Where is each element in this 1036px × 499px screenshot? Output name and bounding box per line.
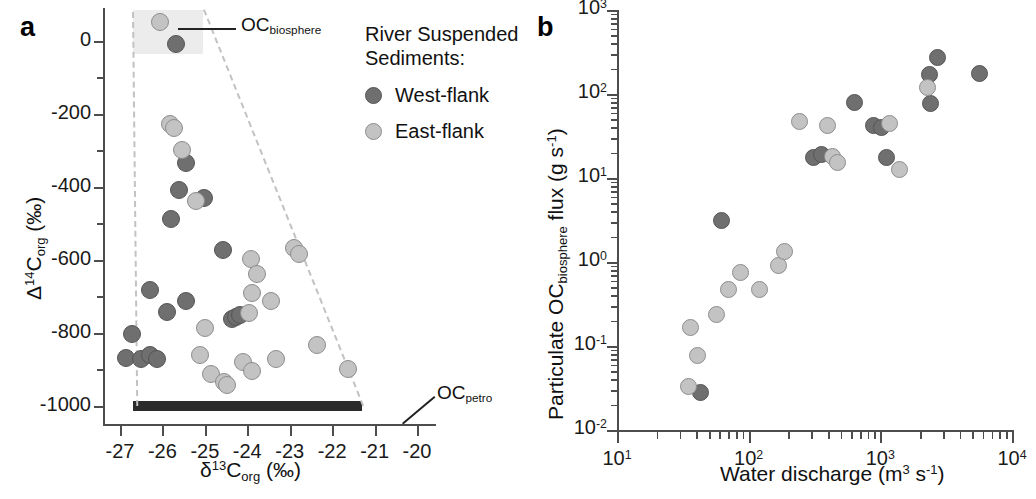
panel-b-x-minor-tick xyxy=(743,432,745,439)
data-point-east xyxy=(267,350,285,368)
panel-b-y-minor-tick xyxy=(611,138,617,140)
panel-b-y-tick-label-0: 100 xyxy=(539,248,607,271)
panel-a-y-tick-2 xyxy=(94,187,103,189)
panel-b-x-minor-tick xyxy=(960,432,962,439)
panel-b-y-minor-tick xyxy=(611,211,617,213)
panel-b-x-tick-label-2: 102 xyxy=(704,447,794,470)
panel-b-x-minor-tick xyxy=(811,432,813,439)
panel-b-y-minor-tick xyxy=(611,281,617,283)
panel-b-y-tick-label-3: 103 xyxy=(539,0,607,19)
data-point-east xyxy=(720,281,737,298)
panel-b-y-minor-tick xyxy=(611,107,617,109)
panel-b-y-minor-tick xyxy=(611,287,617,289)
panel-b-y-minor-tick xyxy=(611,222,617,224)
panel-b-y-minor-tick xyxy=(611,119,617,121)
panel-b-x-minor-tick xyxy=(992,432,994,439)
data-point-east xyxy=(308,336,326,354)
panel-b-y-tick-label-1: 101 xyxy=(539,164,607,187)
panel-b-y-minor-tick xyxy=(611,405,617,407)
panel-b-x-minor-tick xyxy=(728,432,730,439)
legend-item-west-flank[interactable]: West-flank xyxy=(365,84,518,107)
panel-a-y-minor-tick xyxy=(97,223,103,225)
panel-b-x-minor-tick xyxy=(1006,432,1008,439)
panel-a-x-tick-3 xyxy=(247,426,249,436)
panel-a-x-tick-4 xyxy=(290,426,292,436)
oc-petro-bar xyxy=(133,401,362,411)
panel-b-y-minor-tick xyxy=(611,191,617,193)
panel-b-x-minor-tick xyxy=(680,432,682,439)
panel-b-x-sup2: -1 xyxy=(926,462,938,477)
oc-petro-subscript: petro xyxy=(466,391,493,404)
panel-b-y-minor-tick xyxy=(611,102,617,104)
panel-a-y-tick-5 xyxy=(94,406,103,408)
panel-b-x-tick-2 xyxy=(749,432,751,443)
panel-a-y-tick-4 xyxy=(94,333,103,335)
panel-a-y-tick-label-0: 0 xyxy=(3,28,91,51)
data-point-east xyxy=(173,141,191,159)
panel-b-x-minor-tick xyxy=(736,432,738,439)
data-point-east xyxy=(680,378,697,395)
panel-b-x-tick-4 xyxy=(1012,432,1014,443)
panel-a-y-tick-3 xyxy=(94,260,103,262)
panel-b-y-minor-tick xyxy=(611,186,617,188)
data-point-east xyxy=(243,284,261,302)
panel-b-y-tick-3 xyxy=(607,10,617,12)
panel-b-x-minor-tick xyxy=(983,432,985,439)
data-point-east xyxy=(919,79,936,96)
data-point-east xyxy=(891,161,908,178)
panel-a-y-tick-0 xyxy=(94,41,103,43)
panel-a-x-axis-line xyxy=(103,424,436,426)
panel-a-y-tick-label-5: -1000 xyxy=(3,393,91,416)
panel-a-y-tick-label-2: -400 xyxy=(3,174,91,197)
panel-b-y-minor-tick xyxy=(611,14,617,16)
y-axis-superscript: 14 xyxy=(22,271,37,285)
panel-b-y-minor-tick xyxy=(611,354,617,356)
panel-b-y-minor-tick xyxy=(611,18,617,20)
oc-petro-leader-line xyxy=(402,396,435,424)
panel-b-y-minor-tick xyxy=(611,23,617,25)
panel-b-y-minor-tick xyxy=(611,35,617,37)
figure-root: a Δ14Corg (‰) δ13Corg (‰) OCbiosphere OC… xyxy=(0,0,1036,499)
panel-b-y-minor-tick xyxy=(611,54,617,56)
panel-b-x-tick-1 xyxy=(617,432,619,443)
panel-b-y-minor-tick xyxy=(611,98,617,100)
y-axis-delta: Δ xyxy=(22,286,45,300)
panel-b-x-minor-tick xyxy=(841,432,843,439)
panel-b-y-minor-tick xyxy=(611,127,617,129)
x-axis-subscript: org xyxy=(241,469,260,484)
panel-b-x-minor-tick xyxy=(999,432,1001,439)
panel-b-x-minor-tick xyxy=(709,432,711,439)
panel-a-x-tick-0 xyxy=(120,426,122,436)
legend-item-east-flank[interactable]: East-flank xyxy=(365,120,518,143)
panel-b-x-minor-tick xyxy=(719,432,721,439)
panel-a-y-minor-tick xyxy=(97,77,103,79)
data-point-east xyxy=(708,306,725,323)
panel-b-y-tick-label--2: 10-2 xyxy=(539,416,607,439)
data-point-east xyxy=(819,117,836,134)
panel-b-y-tick-2 xyxy=(607,94,617,96)
data-point-east xyxy=(751,281,768,298)
panel-b-y-tick--2 xyxy=(607,430,617,432)
panel-b-y-minor-tick xyxy=(611,321,617,323)
data-point-east xyxy=(881,115,898,132)
oc-petro-annotation: OCpetro xyxy=(437,382,492,404)
legend: River Suspended Sediments: West-flank Ea… xyxy=(365,22,518,143)
panel-b-x-minor-tick xyxy=(943,432,945,439)
panel-b-y-minor-tick xyxy=(611,29,617,31)
panel-b-y-tick-label--1: 10-1 xyxy=(539,332,607,355)
panel-b-x-minor-tick xyxy=(828,432,830,439)
data-point-east xyxy=(262,292,280,310)
panel-a-y-tick-1 xyxy=(94,114,103,116)
panel-b-y-minor-tick xyxy=(611,153,617,155)
panel-a-x-tick-2 xyxy=(205,426,207,436)
data-point-east xyxy=(191,346,209,364)
panel-b-x-minor-tick xyxy=(788,432,790,439)
data-point-west xyxy=(929,49,946,66)
panel-b-x-minor-tick xyxy=(657,432,659,439)
panel-b-x-minor-tick xyxy=(851,432,853,439)
oc-biosphere-annotation: OCbiosphere xyxy=(241,14,321,36)
panel-b-x-minor-tick xyxy=(868,432,870,439)
legend-label-west-flank: West-flank xyxy=(395,84,489,107)
data-point-east xyxy=(240,304,258,322)
panel-b-y-minor-tick xyxy=(611,69,617,71)
